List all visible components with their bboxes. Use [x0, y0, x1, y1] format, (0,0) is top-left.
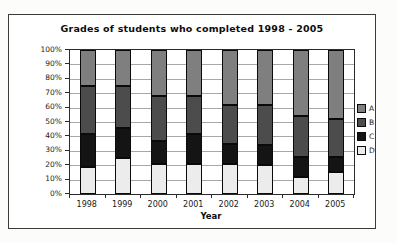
bar-2000 — [151, 50, 167, 194]
x-tick-label-2002: 2002 — [213, 201, 245, 209]
bar-segment-2004-grade-A — [293, 50, 309, 116]
legend-swatch-icon-C — [357, 132, 366, 141]
bar-segment-2000-grade-B — [151, 96, 167, 141]
y-tick-label-40%: 40% — [12, 132, 62, 140]
bar-2004 — [293, 50, 309, 194]
legend-item-C: C — [357, 132, 375, 141]
chart-title: Grades of students who completed 1998 - … — [9, 24, 375, 34]
x-tick-mark — [318, 195, 319, 198]
bar-segment-2003-grade-D — [257, 165, 273, 194]
legend-item-D: D — [357, 146, 375, 155]
bar-segment-2002-grade-C — [222, 144, 238, 164]
bar-segment-2004-grade-B — [293, 116, 309, 156]
y-tick-mark — [65, 135, 69, 136]
y-tick-mark — [65, 179, 69, 180]
bar-segment-2001-grade-D — [186, 164, 202, 194]
bar-1999 — [115, 50, 131, 194]
gridline-30 — [70, 151, 354, 152]
y-tick-label-60%: 60% — [12, 103, 62, 111]
y-tick-mark — [65, 164, 69, 165]
bar-segment-2003-grade-A — [257, 50, 273, 105]
gridline-70 — [70, 93, 354, 94]
bar-segment-2003-grade-C — [257, 145, 273, 165]
legend-label-D: D — [369, 147, 375, 155]
x-tick-mark — [69, 195, 70, 198]
gridline-40 — [70, 136, 354, 137]
x-tick-label-2005: 2005 — [319, 201, 351, 209]
bar-segment-1999-grade-B — [115, 86, 131, 128]
screenshot-root: Grades of students who completed 1998 - … — [0, 0, 397, 243]
legend-swatch-icon-A — [357, 104, 366, 113]
bar-segment-1999-grade-A — [115, 50, 131, 86]
bar-segment-2005-grade-A — [328, 50, 344, 119]
y-tick-label-80%: 80% — [12, 74, 62, 82]
x-tick-label-2003: 2003 — [248, 201, 280, 209]
x-tick-mark — [140, 195, 141, 198]
x-tick-mark — [353, 195, 354, 198]
bar-segment-2003-grade-B — [257, 105, 273, 145]
bar-segment-2002-grade-A — [222, 50, 238, 105]
bar-segment-2004-grade-C — [293, 157, 309, 177]
x-tick-label-1998: 1998 — [71, 201, 103, 209]
bar-2003 — [257, 50, 273, 194]
bar-segment-1998-grade-D — [80, 167, 96, 194]
x-tick-label-2001: 2001 — [177, 201, 209, 209]
x-tick-mark — [176, 195, 177, 198]
bar-segment-1999-grade-D — [115, 158, 131, 194]
y-tick-label-100%: 100% — [12, 46, 62, 54]
x-tick-mark — [282, 195, 283, 198]
bar-segment-2000-grade-C — [151, 141, 167, 164]
y-tick-mark — [65, 107, 69, 108]
gridline-10 — [70, 180, 354, 181]
gridline-90 — [70, 64, 354, 65]
legend-item-A: A — [357, 104, 375, 113]
y-tick-mark — [65, 121, 69, 122]
bar-2002 — [222, 50, 238, 194]
y-tick-mark — [65, 150, 69, 151]
legend-label-A: A — [369, 105, 374, 113]
bar-2005 — [328, 50, 344, 194]
y-tick-label-90%: 90% — [12, 60, 62, 68]
bar-segment-2002-grade-B — [222, 105, 238, 144]
legend-label-B: B — [369, 119, 374, 127]
y-tick-label-0%: 0% — [12, 190, 62, 198]
y-tick-label-20%: 20% — [12, 161, 62, 169]
x-tick-label-1999: 1999 — [106, 201, 138, 209]
x-tick-label-2000: 2000 — [142, 201, 174, 209]
gridline-50 — [70, 122, 354, 123]
y-tick-mark — [65, 92, 69, 93]
gridline-20 — [70, 165, 354, 166]
bar-segment-2002-grade-D — [222, 164, 238, 194]
legend-swatch-icon-D — [357, 146, 366, 155]
bar-segment-2004-grade-D — [293, 177, 309, 194]
bar-segment-1998-grade-A — [80, 50, 96, 86]
bar-segment-1999-grade-C — [115, 128, 131, 158]
legend-item-B: B — [357, 118, 375, 127]
bar-2001 — [186, 50, 202, 194]
y-tick-mark — [65, 78, 69, 79]
legend-swatch-icon-B — [357, 118, 366, 127]
x-tick-mark — [105, 195, 106, 198]
legend-label-C: C — [369, 133, 374, 141]
y-tick-label-50%: 50% — [12, 118, 62, 126]
bar-segment-2005-grade-B — [328, 119, 344, 156]
x-axis-title: Year — [69, 212, 353, 221]
bar-segment-1998-grade-B — [80, 86, 96, 134]
bar-segment-2000-grade-D — [151, 164, 167, 194]
bar-segment-2001-grade-B — [186, 96, 202, 133]
y-tick-label-70%: 70% — [12, 89, 62, 97]
gridline-60 — [70, 108, 354, 109]
chart-container: Grades of students who completed 1998 - … — [8, 14, 376, 229]
y-tick-mark — [65, 193, 69, 194]
bar-segment-2001-grade-C — [186, 134, 202, 164]
x-tick-mark — [211, 195, 212, 198]
y-tick-mark — [65, 63, 69, 64]
x-tick-mark — [247, 195, 248, 198]
bar-segment-2000-grade-A — [151, 50, 167, 96]
x-tick-label-2004: 2004 — [284, 201, 316, 209]
bar-1998 — [80, 50, 96, 194]
bar-segment-1998-grade-C — [80, 134, 96, 167]
bar-segment-2005-grade-D — [328, 172, 344, 194]
legend: ABCD — [357, 104, 375, 155]
plot-area — [69, 49, 355, 195]
